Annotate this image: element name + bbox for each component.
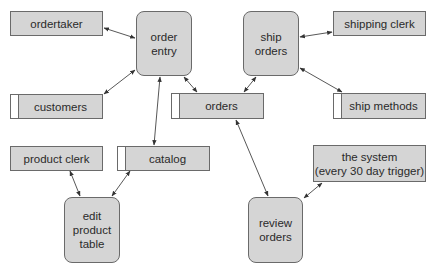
store-catalog: catalog <box>117 146 210 171</box>
store-label: catalog <box>149 152 186 166</box>
store-ship-methods: ship methods <box>333 93 426 119</box>
entity-label: product clerk <box>24 152 90 166</box>
entity-the-system: the system (every 30 day trigger) <box>313 145 426 182</box>
flow-ship-orders-ship-methods <box>300 68 342 92</box>
process-edit-product-table: edit product table <box>64 197 120 263</box>
store-label: orders <box>205 99 238 113</box>
flow-order-entry-catalog <box>154 77 160 145</box>
process-label: order entry <box>151 30 178 58</box>
store-orders: orders <box>171 93 264 119</box>
entity-label: shipping clerk <box>344 17 414 31</box>
process-ship-orders: ship orders <box>243 11 299 76</box>
store-customers: customers <box>10 94 103 119</box>
flow-orders-review-orders <box>236 120 268 196</box>
flow-the-system-review-orders <box>304 183 322 198</box>
store-tab <box>334 94 342 118</box>
flow-catalog-edit-product-table <box>112 171 130 196</box>
entity-label: ordertaker <box>30 17 82 31</box>
store-tab <box>172 94 180 118</box>
store-tab <box>11 95 19 118</box>
flow-product-clerk-edit-product-table <box>70 171 80 196</box>
entity-label: the system (every 30 day trigger) <box>315 150 424 178</box>
process-label: review orders <box>259 216 292 244</box>
flow-ordertaker-order-entry <box>104 28 135 38</box>
flow-order-entry-customers <box>104 70 135 94</box>
entity-product-clerk: product clerk <box>10 146 103 171</box>
entity-shipping-clerk: shipping clerk <box>333 11 426 36</box>
process-review-orders: review orders <box>248 197 303 263</box>
flow-ship-orders-shipping-clerk <box>300 32 332 37</box>
process-label: ship orders <box>255 30 288 58</box>
entity-ordertaker: ordertaker <box>10 11 103 36</box>
process-label: edit product table <box>73 209 111 251</box>
process-order-entry: order entry <box>136 11 192 76</box>
flow-ship-orders-orders <box>244 77 256 92</box>
store-tab <box>118 147 126 170</box>
store-label: ship methods <box>349 99 417 113</box>
store-label: customers <box>34 100 87 114</box>
flow-order-entry-orders <box>184 77 197 92</box>
